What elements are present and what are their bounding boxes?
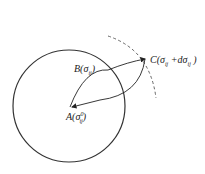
diagram-graphics bbox=[0, 0, 205, 174]
label-point-c: C(σij +dσij ) bbox=[150, 55, 197, 67]
label-point-b: B(σij) bbox=[74, 64, 95, 76]
label-point-a: A(σ0ij) bbox=[66, 111, 86, 124]
stress-path-diagram: B(σij) A(σ0ij) C(σij +dσij ) bbox=[0, 0, 205, 174]
initial-yield-circle bbox=[13, 50, 125, 162]
